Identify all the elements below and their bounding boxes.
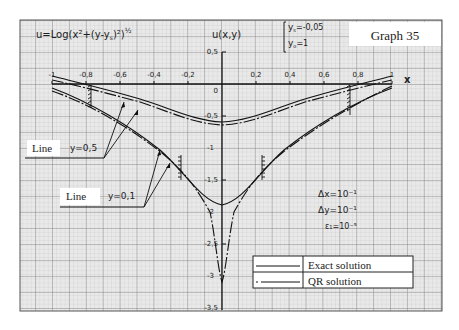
graph-figure: -1 -0,8 -0,6 -0,4 -0,2 0,2 0,4 0,6 0,8 1… — [0, 0, 459, 330]
y-tick-label: -3,5 — [204, 304, 218, 312]
y-axis-label: u(x,y) — [212, 29, 241, 40]
formula: u=Log(x²+(y-ys)²)½ — [36, 27, 132, 41]
svg-text:y=0,1: y=0,1 — [108, 191, 135, 201]
x-tick-label: 0,4 — [284, 71, 296, 79]
x-tick-label: -0,8 — [79, 71, 93, 79]
x-tick-label: 1 — [390, 71, 394, 79]
svg-text:y=0,5: y=0,5 — [70, 143, 97, 153]
x-tick-label: 0,6 — [318, 71, 330, 79]
legend-label-exact: Exact solution — [308, 259, 372, 271]
graph-label: Graph 35 — [349, 22, 441, 46]
x-tick-label: 0,2 — [250, 71, 261, 79]
y-tick-label: -0,5 — [204, 112, 218, 120]
svg-text:Line: Line — [66, 190, 86, 202]
legend-label-qr: QR solution — [308, 275, 362, 287]
svg-text:Graph 35: Graph 35 — [371, 28, 420, 43]
y-tick-label: 0 — [214, 87, 218, 95]
x-tick-label: -0,2 — [181, 71, 195, 79]
x-axis-label: x — [404, 74, 411, 85]
svg-text:yo=1: yo=1 — [288, 38, 308, 49]
svg-text:u=Log(x²+(y-ys)²)½: u=Log(x²+(y-ys)²)½ — [36, 27, 132, 41]
dx-annotation: Δx=10⁻¹ — [318, 189, 357, 199]
x-tick-label: -0,6 — [113, 71, 127, 79]
dy-annotation: Δy=10⁻¹ — [318, 205, 357, 215]
x-tick-label: -1 — [49, 71, 56, 79]
y-tick-label: -3 — [207, 272, 214, 280]
x-tick-label: -0,4 — [147, 71, 161, 79]
eps-annotation: ε₁=10⁻⁵ — [325, 222, 357, 231]
y-tick-label: -1,5 — [204, 176, 218, 184]
svg-text:ys=-0,05: ys=-0,05 — [288, 22, 323, 33]
svg-text:Line: Line — [32, 142, 52, 154]
y-tick-label: -1 — [207, 144, 214, 152]
legend: Exact solution QR solution — [253, 256, 413, 288]
x-tick-label: 0,8 — [352, 71, 363, 79]
y-tick-label: 0,5 — [207, 48, 218, 56]
